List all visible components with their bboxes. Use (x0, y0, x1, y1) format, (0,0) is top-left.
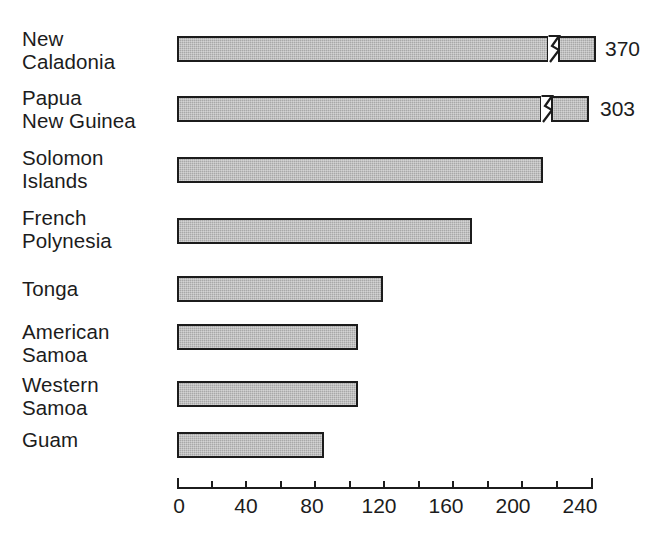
x-tick-label-160: 160 (428, 494, 463, 518)
value-label-new-caladonia: 370 (605, 36, 640, 62)
x-tick-200 (521, 481, 523, 488)
bar-new-caladonia-main[interactable] (177, 36, 549, 62)
x-tick-140 (418, 481, 420, 488)
value-label-papua-new-guinea: 303 (600, 96, 635, 122)
bar-guam[interactable] (177, 432, 324, 458)
bar-papua-new-guinea-main[interactable] (177, 96, 542, 122)
x-tick-0 (177, 478, 179, 488)
plot-area: 370 303 (0, 0, 664, 470)
x-tick-60 (280, 481, 282, 488)
bar-texture (560, 38, 594, 60)
x-tick-160 (452, 481, 454, 488)
x-tick-100 (349, 481, 351, 488)
x-tick-80 (314, 481, 316, 488)
bar-western-samoa[interactable] (177, 381, 358, 407)
bar-texture (179, 220, 470, 242)
x-axis: 0 40 80 120 160 200 240 (0, 470, 664, 543)
bar-texture (553, 98, 587, 120)
bar-texture (179, 38, 547, 60)
x-tick-label-40: 40 (234, 494, 257, 518)
bar-new-caladonia-stub[interactable] (558, 36, 596, 62)
bar-texture (179, 278, 381, 300)
x-tick-180 (487, 481, 489, 488)
x-tick-120 (383, 481, 385, 488)
x-tick-20 (211, 481, 213, 488)
bar-texture (179, 434, 322, 456)
bar-american-samoa[interactable] (177, 324, 358, 350)
x-tick-label-240: 240 (562, 494, 597, 518)
x-tick-label-0: 0 (173, 494, 185, 518)
x-tick-label-120: 120 (361, 494, 396, 518)
x-tick-220 (556, 481, 558, 488)
bar-texture (179, 159, 541, 181)
bar-french-polynesia[interactable] (177, 218, 472, 244)
bar-texture (179, 383, 356, 405)
x-tick-label-80: 80 (300, 494, 323, 518)
x-tick-240 (591, 478, 593, 488)
bar-solomon-islands[interactable] (177, 157, 543, 183)
x-tick-label-200: 200 (495, 494, 530, 518)
bar-texture (179, 326, 356, 348)
x-tick-40 (245, 481, 247, 488)
bar-papua-new-guinea-stub[interactable] (551, 96, 589, 122)
bar-texture (179, 98, 540, 120)
bar-chart: New Caladonia Papua New Guinea Solomon I… (0, 0, 664, 543)
bar-tonga[interactable] (177, 276, 383, 302)
